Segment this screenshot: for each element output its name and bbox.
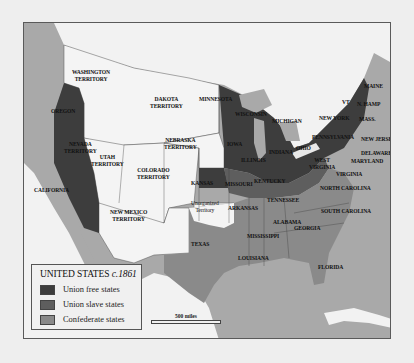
label-vermont: VT — [342, 99, 350, 106]
label-louisiana: LOUISIANA — [238, 255, 269, 262]
scale-bar: 500 miles — [151, 313, 221, 324]
map-legend: UNITED STATES c.1861 Union free states U… — [31, 264, 142, 330]
label-dakota: DAKOTATERRITORY — [150, 96, 183, 109]
label-minnesota: MINNESOTA — [199, 96, 232, 103]
label-maine: MAINE — [364, 83, 383, 90]
label-massachusetts: MASS. — [359, 116, 375, 123]
label-nevada: NEVADATERRITORY — [64, 141, 97, 154]
label-new-jersey: NEW JERSEY — [361, 136, 391, 143]
label-west-virginia: WESTVIRGINIA — [309, 157, 335, 170]
swatch-confederate — [40, 315, 55, 325]
map-page: WASHINGTONTERRITORY DAKOTATERRITORY NEBR… — [0, 0, 414, 363]
label-pennsylvania: PENNSYLVANIA — [312, 134, 354, 141]
scale-label: 500 miles — [151, 313, 221, 319]
label-delaware: DELAWARE — [361, 150, 391, 157]
label-new-york: NEW YORK — [319, 115, 349, 122]
label-ohio: OHIO — [296, 145, 311, 152]
legend-title: UNITED STATES c.1861 — [40, 269, 141, 279]
legend-item-union-free: Union free states — [40, 282, 141, 297]
label-wisconsin: WISCONSIN — [235, 111, 267, 118]
label-mississippi: MISSISSIPPI — [247, 233, 279, 240]
label-kentucky: KENTUCKY — [254, 178, 286, 185]
label-missouri: MISSOURI — [225, 181, 253, 188]
label-kansas: KANSAS — [191, 180, 213, 187]
label-iowa: IOWA — [227, 141, 242, 148]
label-illinois: ILLINOIS — [241, 157, 266, 164]
label-unorganized: UnorganizedTerritory — [191, 200, 219, 213]
label-california: CALIFORNIA — [34, 187, 69, 194]
swatch-union-free — [40, 285, 55, 295]
swatch-union-slave — [40, 300, 55, 310]
label-virginia: VIRGINIA — [336, 171, 362, 178]
label-indiana: INDIANA — [269, 149, 293, 156]
scale-line — [151, 320, 221, 324]
label-utah: UTAHTERRITORY — [91, 154, 124, 167]
label-south-carolina: SOUTH CAROLINA — [321, 208, 371, 215]
label-arkansas: ARKANSAS — [228, 205, 258, 212]
label-florida: FLORIDA — [318, 264, 343, 271]
label-colorado: COLORADOTERRITORY — [137, 167, 170, 180]
label-texas: TEXAS — [191, 241, 209, 248]
label-north-carolina: NORTH CAROLINA — [320, 185, 371, 192]
label-oregon: OREGON — [51, 108, 75, 115]
label-maryland: MARYLAND — [351, 158, 383, 165]
label-georgia: GEORGIA — [294, 225, 320, 232]
label-tennessee: TENNESSEE — [267, 197, 299, 204]
label-washington: WASHINGTONTERRITORY — [72, 69, 110, 82]
label-new-hampshire: N. HAMP — [357, 101, 380, 108]
label-nebraska: NEBRASKATERRITORY — [164, 137, 197, 150]
label-michigan: MICHIGAN — [272, 118, 302, 125]
legend-item-confederate: Confederate states — [40, 312, 141, 327]
label-new-mexico: NEW MEXICOTERRITORY — [110, 209, 147, 222]
legend-item-union-slave: Union slave states — [40, 297, 141, 312]
